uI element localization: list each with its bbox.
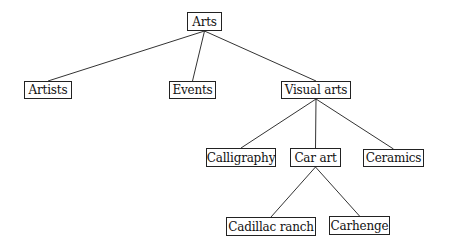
node-cadillac-ranch: Cadillac ranch — [226, 217, 316, 236]
edge-visual-arts-to-car-art — [316, 99, 317, 148]
edge-arts-to-visual-arts — [205, 31, 317, 81]
edge-arts-to-events — [193, 31, 205, 81]
edge-car-art-to-carhenge — [316, 167, 360, 216]
node-ceramics: Ceramics — [363, 149, 424, 167]
node-car-art: Car art — [290, 148, 341, 167]
edge-visual-arts-to-calligraphy — [241, 99, 316, 148]
node-artists: Artists — [24, 81, 72, 99]
node-calligraphy: Calligraphy — [206, 148, 276, 167]
node-carhenge: Carhenge — [329, 216, 390, 235]
node-events: Events — [169, 81, 216, 99]
edge-arts-to-artists — [48, 31, 205, 81]
edge-car-art-to-cadillac-ranch — [271, 167, 316, 217]
edge-visual-arts-to-ceramics — [316, 99, 394, 149]
tree-edges — [0, 0, 449, 251]
node-arts: Arts — [187, 12, 222, 31]
tree-diagram: ArtsArtistsEventsVisual artsCalligraphyC… — [0, 0, 449, 251]
node-visual-arts: Visual arts — [281, 81, 351, 99]
